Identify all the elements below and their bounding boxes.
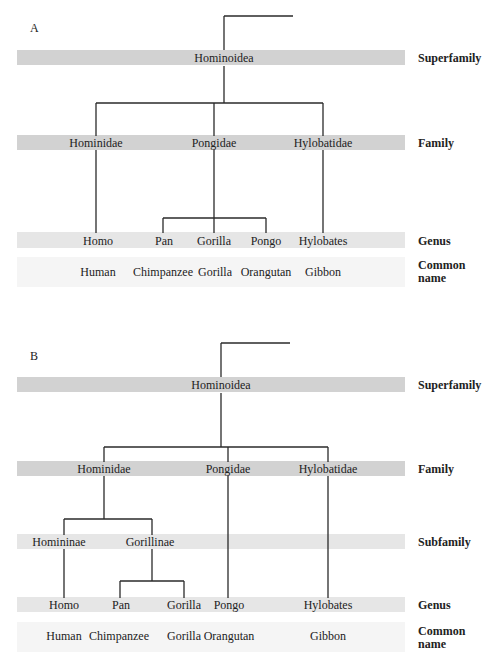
subfamily-gorillinae: Gorillinae bbox=[126, 535, 175, 549]
family-pongidae: Pongidae bbox=[206, 462, 251, 476]
common-name-gibbon: Gibbon bbox=[310, 629, 346, 643]
rank-subfamily: Subfamily bbox=[418, 536, 471, 549]
genus-homo: Homo bbox=[49, 598, 79, 612]
common-name-gorilla: Gorilla bbox=[167, 629, 201, 643]
genus-pan: Pan bbox=[112, 598, 130, 612]
rank-superfamily: Superfamily bbox=[418, 379, 481, 392]
common-name-chimpanzee: Chimpanzee bbox=[89, 629, 149, 643]
rank-common-name: Common name bbox=[418, 625, 465, 651]
genus-gorilla: Gorilla bbox=[167, 598, 201, 612]
rank-genus: Genus bbox=[418, 599, 451, 612]
subfamily-homininae: Homininae bbox=[32, 535, 85, 549]
tree-lines-b bbox=[0, 0, 496, 657]
genus-hylobates: Hylobates bbox=[304, 598, 353, 612]
family-hominidae: Hominidae bbox=[77, 462, 130, 476]
genus-pongo: Pongo bbox=[214, 598, 245, 612]
common-name-human: Human bbox=[46, 629, 81, 643]
family-hylobatidae: Hylobatidae bbox=[299, 462, 358, 476]
common-name-orangutan: Orangutan bbox=[204, 629, 255, 643]
rank-family: Family bbox=[418, 463, 454, 476]
superfamily-hominoidea: Hominoidea bbox=[191, 378, 250, 392]
